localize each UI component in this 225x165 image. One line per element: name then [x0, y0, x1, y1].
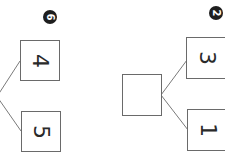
connector-line: [161, 95, 188, 130]
part-box: 3: [186, 37, 225, 79]
problem-number-badge: 6: [43, 10, 57, 24]
part-value: 1: [197, 123, 219, 137]
part-box: 5: [21, 111, 61, 152]
badge-label: 2: [211, 10, 221, 17]
part-value: 5: [30, 125, 52, 139]
part-box: 4: [20, 40, 60, 81]
connector-line: [0, 61, 20, 95]
connector-line: [0, 98, 21, 131]
problem-number-badge: 2: [209, 6, 223, 20]
part-value: 4: [29, 54, 51, 68]
part-box: 1: [187, 109, 225, 151]
badge-label: 6: [45, 14, 55, 21]
whole-answer-box[interactable]: [122, 74, 162, 116]
connector-line: [161, 60, 187, 95]
part-value: 3: [196, 51, 218, 65]
